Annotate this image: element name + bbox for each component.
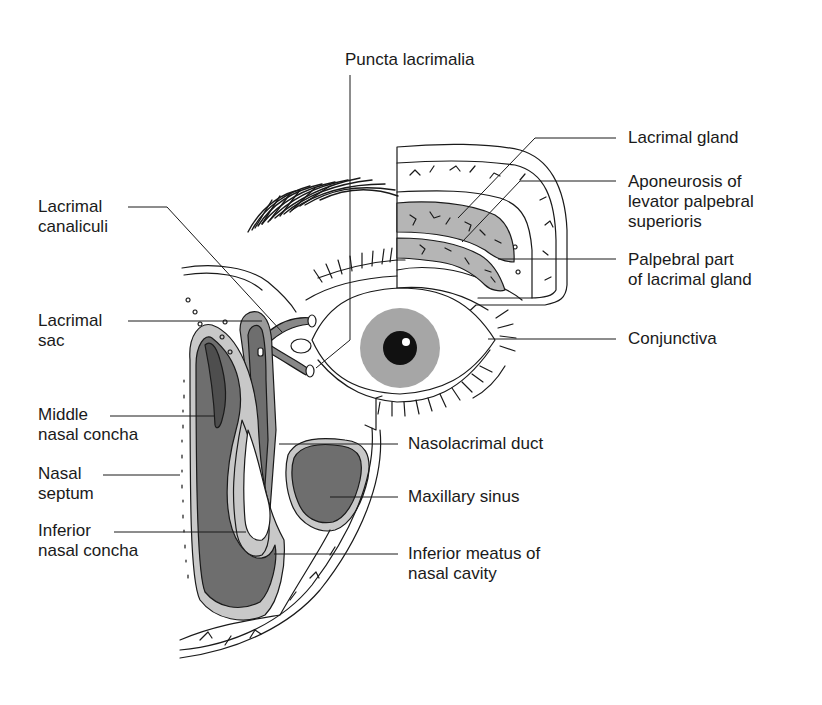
eyeball [312,288,505,416]
maxillary-sinus [286,439,369,531]
lacrimal-apparatus-diagram: Puncta lacrimalia Lacrimal gland Aponeur… [0,0,822,705]
label-lacrimal-canaliculi: Lacrimal canaliculi [38,197,108,237]
label-inferior-nasal-concha: Inferior nasal concha [38,521,138,561]
lacrimal-gland [397,202,514,291]
label-inferior-meatus: Inferior meatus of nasal cavity [408,544,540,584]
lower-lid-cut [365,396,382,430]
label-nasolacrimal-duct: Nasolacrimal duct [408,434,543,454]
pupil [383,331,417,365]
label-lacrimal-gland: Lacrimal gland [628,128,739,148]
label-lacrimal-sac: Lacrimal sac [38,311,102,351]
label-middle-nasal-concha: Middle nasal concha [38,405,138,445]
label-nasal-septum: Nasal septum [38,464,94,504]
label-palpebral-part: Palpebral part of lacrimal gland [628,250,752,290]
label-aponeurosis: Aponeurosis of levator palpebral superio… [628,172,754,232]
label-conjunctiva: Conjunctiva [628,329,717,349]
eyebrow [248,178,398,232]
label-maxillary-sinus: Maxillary sinus [408,487,519,507]
anatomy-illustration [0,0,822,705]
label-puncta-lacrimalia: Puncta lacrimalia [345,50,474,70]
